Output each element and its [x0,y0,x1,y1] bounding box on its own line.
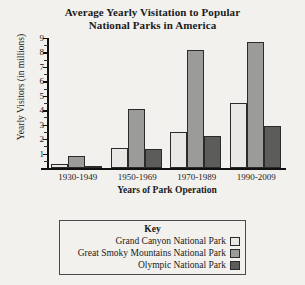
y-tick-mark [43,52,49,53]
bar [111,148,128,168]
y-minor-tick-mark [44,117,48,118]
bar-group [230,38,284,168]
chart-title: Average Yearly Visitation to Popular Nat… [0,0,305,32]
chart-title-line-2: National Parks in America [0,19,305,32]
bar [51,164,68,168]
y-tick-mark [43,38,49,39]
y-minor-tick-mark [44,103,48,104]
bar-group [51,38,105,168]
y-axis-title: Yearly Visitors (in millions) [16,22,26,152]
bars-layer [48,38,286,168]
x-axis-title: Years of Park Operation [48,185,286,195]
x-tick-label: 1970-1989 [177,172,216,182]
y-tick-mark [43,96,49,97]
legend-item: Great Smoky Mountains National Park [60,247,245,259]
bar [85,166,102,168]
x-tick-label: 1950-1969 [118,172,157,182]
plot-area: Yearly Visitors (in millions) 123456789 … [0,38,305,188]
y-tick-mark [43,110,49,111]
legend-swatch [230,261,240,270]
y-tick-mark [43,139,49,140]
legend-swatch [230,237,240,246]
bar-group [170,38,224,168]
legend-item-label: Grand Canyon National Park [115,236,226,246]
bar [264,126,281,168]
x-tick-label: 1930-1949 [58,172,97,182]
bar [187,50,204,168]
bar [170,132,187,168]
legend-item: Olympic National Park [60,259,245,271]
legend-title: Key [60,223,245,235]
legend-item-label: Great Smoky Mountains National Park [78,248,226,258]
x-axis-line [41,168,286,170]
legend-rows: Grand Canyon National ParkGreat Smoky Mo… [60,235,245,271]
y-minor-tick-mark [44,161,48,162]
y-axis-tick-labels: 123456789 [30,38,44,168]
bar [204,136,221,168]
y-tick-mark [43,154,49,155]
y-minor-tick-mark [44,45,48,46]
legend-item: Grand Canyon National Park [60,235,245,247]
bar-group [111,38,165,168]
y-tick-mark [43,125,49,126]
y-tick-mark [43,81,49,82]
legend-item-label: Olympic National Park [138,260,226,270]
x-tick-label: 1990-2009 [237,172,276,182]
y-tick-mark [43,67,49,68]
bar [128,109,145,168]
bar [68,156,85,168]
y-minor-tick-mark [44,146,48,147]
bar [230,103,247,168]
y-minor-tick-mark [44,132,48,133]
bar [145,149,162,168]
legend: Key Grand Canyon National ParkGreat Smok… [59,220,246,275]
x-axis-tick-labels: 1930-19491950-19691970-19891990-2009 [48,172,286,186]
y-minor-tick-mark [44,60,48,61]
legend-swatch [230,249,240,258]
bar [247,42,264,168]
chart-title-line-1: Average Yearly Visitation to Popular [0,6,305,19]
y-minor-tick-mark [44,89,48,90]
y-minor-tick-mark [44,74,48,75]
